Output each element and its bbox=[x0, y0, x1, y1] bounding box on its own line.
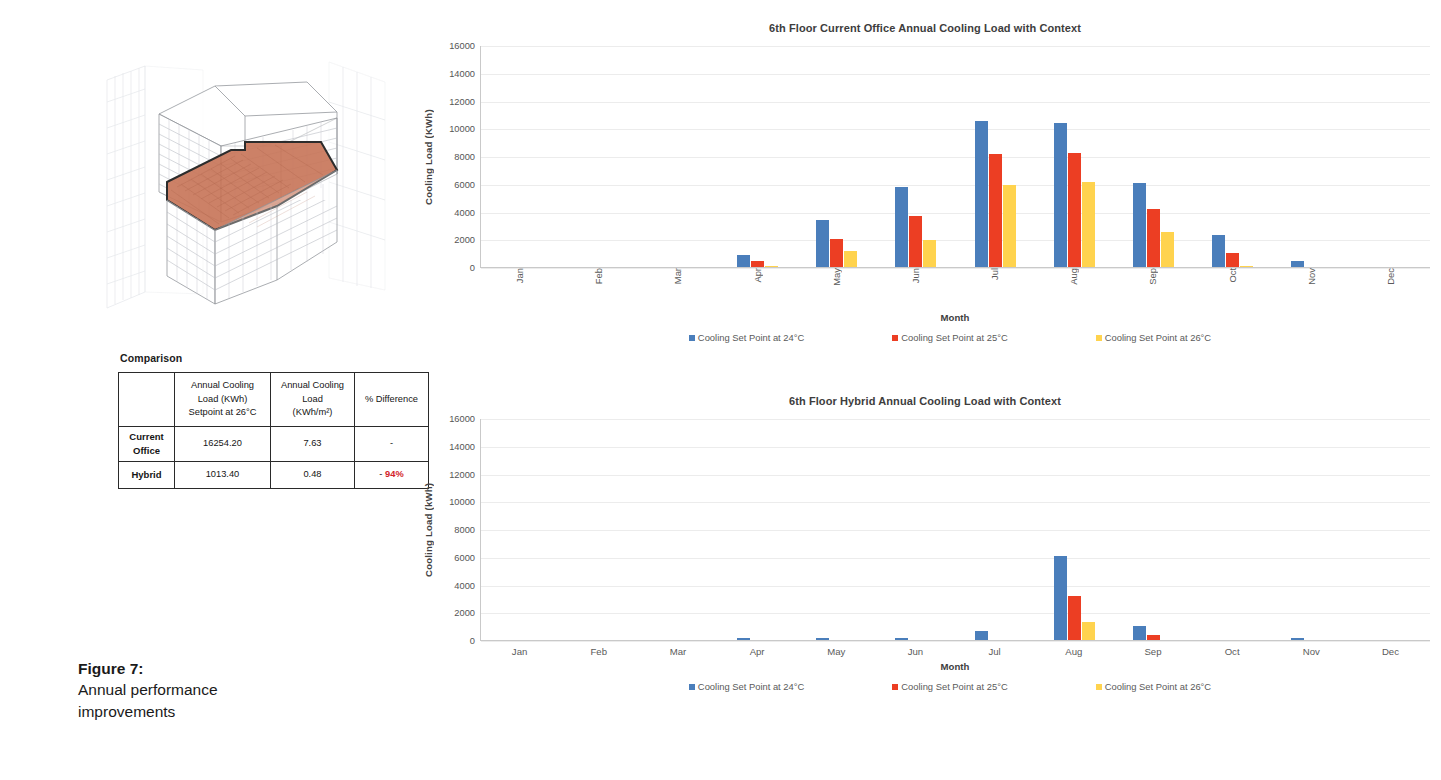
bar bbox=[737, 255, 750, 267]
bar bbox=[737, 638, 750, 640]
x-tick-label: Oct bbox=[1193, 641, 1272, 661]
chart-x-axis-label: Month bbox=[480, 312, 1430, 323]
bar bbox=[1291, 638, 1304, 640]
gridline bbox=[481, 268, 1430, 269]
chart-x-axis-label: Month bbox=[480, 661, 1430, 672]
legend-item[interactable]: Cooling Set Point at 26°C bbox=[1096, 681, 1211, 692]
legend-label: Cooling Set Point at 25°C bbox=[901, 681, 1007, 692]
x-tick-label: Jan bbox=[480, 268, 559, 312]
y-tick-label: 0 bbox=[470, 263, 475, 273]
bar bbox=[975, 631, 988, 640]
legend-item[interactable]: Cooling Set Point at 24°C bbox=[689, 681, 804, 692]
bar-group-apr bbox=[718, 46, 797, 267]
figure-page: Comparison Annual Cooling Load (KWh) Set… bbox=[0, 0, 1441, 780]
x-tick-label: May bbox=[797, 641, 876, 661]
figure-number: Figure 7: bbox=[78, 658, 328, 679]
row-label-hybrid: Hybrid bbox=[119, 461, 175, 488]
bar-group-jan bbox=[481, 419, 560, 640]
y-tick-label: 6000 bbox=[454, 553, 475, 563]
bar-group-apr bbox=[718, 419, 797, 640]
legend-label: Cooling Set Point at 24°C bbox=[698, 681, 804, 692]
x-tick-label: Sep bbox=[1113, 268, 1192, 312]
x-tick-label: Sep bbox=[1113, 641, 1192, 661]
y-tick-label: 14000 bbox=[449, 442, 475, 452]
row-label-line-1: Current bbox=[121, 430, 172, 444]
legend-label: Cooling Set Point at 25°C bbox=[901, 332, 1007, 343]
bar-group-jul bbox=[955, 419, 1034, 640]
bar bbox=[1068, 596, 1081, 640]
bar-group-nov bbox=[1272, 46, 1351, 267]
header-annual-load-per-m2: Annual Cooling Load (KWh/m²) bbox=[271, 373, 355, 427]
bar-group-may bbox=[797, 419, 876, 640]
row-label-line-2: Office bbox=[121, 444, 172, 458]
building-3d-render bbox=[85, 42, 415, 327]
gridline bbox=[481, 641, 1430, 642]
figure-caption-line-2: improvements bbox=[78, 703, 175, 720]
chart-legend: Cooling Set Point at 24°CCooling Set Poi… bbox=[470, 332, 1430, 343]
bar bbox=[751, 261, 764, 267]
header-line-3: Setpoint at 26°C bbox=[177, 406, 268, 419]
cell-current-office-load-kwh: 16254.20 bbox=[175, 427, 271, 462]
legend-item[interactable]: Cooling Set Point at 25°C bbox=[892, 681, 1007, 692]
y-tick-label: 14000 bbox=[449, 69, 475, 79]
legend-swatch-icon bbox=[689, 335, 695, 341]
legend-item[interactable]: Cooling Set Point at 26°C bbox=[1096, 332, 1211, 343]
legend-item[interactable]: Cooling Set Point at 24°C bbox=[689, 332, 804, 343]
pct-difference-badge: - 94% bbox=[379, 469, 403, 479]
chart-current-office: 6th Floor Current Office Annual Cooling … bbox=[420, 22, 1430, 343]
chart-title: 6th Floor Hybrid Annual Cooling Load wit… bbox=[420, 395, 1430, 407]
legend-swatch-icon bbox=[892, 335, 898, 341]
header-line-1: Annual Cooling bbox=[177, 379, 268, 392]
bar-group-oct bbox=[1193, 419, 1272, 640]
bar bbox=[1054, 123, 1067, 267]
legend-item[interactable]: Cooling Set Point at 25°C bbox=[892, 332, 1007, 343]
table-row: Hybrid 1013.40 0.48 - 94% bbox=[119, 461, 429, 488]
x-tick-label: Jun bbox=[876, 268, 955, 312]
y-tick-label: 10000 bbox=[449, 497, 475, 507]
chart-plot-area bbox=[480, 46, 1430, 268]
cell-current-office-load-per-m2: 7.63 bbox=[271, 427, 355, 462]
pct-dash: - bbox=[379, 469, 382, 479]
bar bbox=[1133, 626, 1146, 640]
figure-caption: Figure 7: Annual performance improvement… bbox=[78, 658, 328, 722]
x-tick-label: May bbox=[797, 268, 876, 312]
header-line-1: Annual Cooling bbox=[273, 379, 352, 392]
bar-group-mar bbox=[639, 46, 718, 267]
bar-group-jul bbox=[955, 46, 1034, 267]
chart-bars bbox=[481, 419, 1430, 640]
chart-x-axis: JanFebMarAprMayJunJulAugSepOctNovDec bbox=[420, 268, 1430, 312]
legend-label: Cooling Set Point at 24°C bbox=[698, 332, 804, 343]
comparison-table: Annual Cooling Load (KWh) Setpoint at 26… bbox=[118, 372, 429, 489]
bar-group-dec bbox=[1351, 419, 1430, 640]
chart-hybrid: 6th Floor Hybrid Annual Cooling Load wit… bbox=[420, 395, 1430, 692]
chart-y-axis-ticks: 0200040006000800010000120001400016000 bbox=[436, 46, 480, 268]
x-tick-label: Apr bbox=[718, 268, 797, 312]
bar bbox=[1212, 235, 1225, 267]
x-tick-label: Jan bbox=[480, 641, 559, 661]
legend-swatch-icon bbox=[892, 684, 898, 690]
chart-x-tick-labels: JanFebMarAprMayJunJulAugSepOctNovDec bbox=[480, 641, 1430, 661]
bar bbox=[923, 240, 936, 267]
y-tick-label: 16000 bbox=[449, 41, 475, 51]
x-tick-label: Aug bbox=[1034, 641, 1113, 661]
bar bbox=[1240, 266, 1253, 267]
y-tick-label: 12000 bbox=[449, 97, 475, 107]
bar-group-sep bbox=[1114, 46, 1193, 267]
bar bbox=[816, 638, 829, 640]
y-tick-label: 2000 bbox=[454, 608, 475, 618]
y-tick-label: 4000 bbox=[454, 208, 475, 218]
bar-group-jun bbox=[876, 46, 955, 267]
legend-swatch-icon bbox=[1096, 684, 1102, 690]
bar bbox=[989, 154, 1002, 267]
chart-x-tick-labels: JanFebMarAprMayJunJulAugSepOctNovDec bbox=[480, 268, 1430, 312]
y-tick-label: 8000 bbox=[454, 152, 475, 162]
chart-y-axis-ticks: 0200040006000800010000120001400016000 bbox=[436, 419, 480, 641]
bar bbox=[1082, 622, 1095, 640]
chart-title: 6th Floor Current Office Annual Cooling … bbox=[420, 22, 1430, 34]
legend-label: Cooling Set Point at 26°C bbox=[1105, 681, 1211, 692]
x-tick-label: Mar bbox=[638, 641, 717, 661]
bar bbox=[1226, 253, 1239, 267]
x-tick-label: Aug bbox=[1034, 268, 1113, 312]
bar-group-nov bbox=[1272, 419, 1351, 640]
y-tick-label: 2000 bbox=[454, 235, 475, 245]
